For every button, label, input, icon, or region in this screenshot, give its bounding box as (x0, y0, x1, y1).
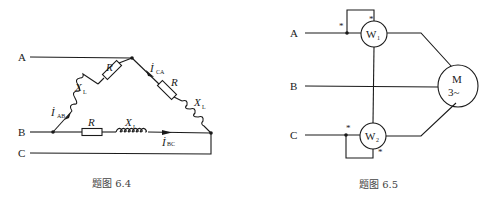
svg-text:M: M (452, 73, 462, 85)
motor: M 3~ (438, 65, 478, 107)
current-ab-label: İ (50, 106, 56, 118)
line-a (30, 57, 132, 58)
terminal-c-label: C (290, 129, 297, 141)
wattmeter-2: W 2 (360, 123, 386, 149)
resistor-bc-label: R (87, 116, 95, 128)
line-b (305, 86, 438, 87)
svg-text:L: L (133, 124, 137, 130)
svg-text:*: * (346, 123, 351, 133)
svg-text:1: 1 (377, 35, 380, 41)
svg-text:L: L (202, 104, 206, 110)
svg-text:W: W (366, 28, 377, 40)
resistor-bc-icon (82, 129, 102, 136)
svg-text:2: 2 (376, 137, 379, 143)
inductor-ca-label: X (193, 96, 202, 108)
branch-ca: İ CA R X L (132, 58, 211, 133)
inductor-bc-icon (116, 128, 147, 132)
w1-to-motor (387, 33, 452, 67)
caption-6-4: 题图 6.4 (92, 178, 131, 189)
resistor-ca-label: R (170, 76, 178, 88)
svg-text:3~: 3~ (448, 86, 460, 98)
terminal-c-label: C (18, 147, 25, 159)
svg-text:CA: CA (156, 69, 165, 75)
current-arrow-bc-icon (162, 130, 172, 135)
line-c (30, 133, 211, 154)
figure-6-4: A B C R X L İ AB (18, 51, 213, 189)
figure-6-5: A B C * * W 1 M 3~ * * (290, 10, 478, 190)
terminal-a-label: A (18, 51, 26, 63)
terminal-b-label: B (290, 80, 297, 92)
w1-w2-link (373, 47, 374, 123)
branch-bc: R X L İ BC (53, 116, 211, 148)
svg-text:*: * (378, 147, 383, 157)
svg-text:L: L (83, 89, 87, 95)
svg-text:W: W (365, 130, 376, 142)
terminal-a-label: A (290, 27, 298, 39)
caption-6-5: 题图 6.5 (359, 179, 398, 190)
current-ca-label: İ (149, 62, 155, 74)
terminal-b-label: B (18, 126, 25, 138)
w2-to-motor (386, 103, 456, 136)
inductor-bc-label: X (124, 116, 133, 128)
svg-text:BC: BC (167, 141, 175, 147)
svg-text:AB: AB (57, 113, 65, 119)
circuit-diagrams: A B C R X L İ AB (0, 0, 482, 199)
resistor-ab-label: R (105, 61, 113, 73)
inductor-ab-label: X (74, 81, 83, 93)
wattmeter-1: W 1 (361, 21, 387, 47)
svg-text:*: * (339, 21, 344, 31)
